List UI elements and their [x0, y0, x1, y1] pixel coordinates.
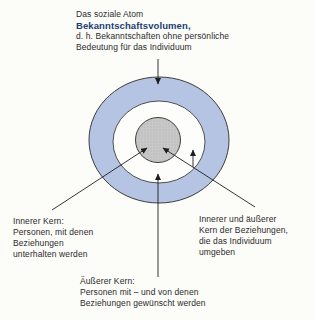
title-line-1: Das soziale Atom	[76, 9, 229, 20]
social-atom-diagram: Das soziale Atom Bekanntschaftsvolumen, …	[0, 0, 314, 320]
label-both-cores-line-3: die das Individuum	[199, 236, 288, 247]
label-outer-core-line-1: Äußerer Kern:	[80, 276, 206, 287]
label-both-cores-line-1: Innerer und äußerer	[199, 214, 288, 225]
label-both-cores-line-4: umgeben	[199, 247, 288, 258]
label-both-cores-line-2: Kern der Beziehungen,	[199, 225, 288, 236]
title-acquaintance-volume: Bekanntschaftsvolumen,	[76, 20, 229, 31]
label-inner-core-line-4: unterhalten werden	[13, 249, 93, 260]
label-inner-and-outer-core: Innerer und äußerer Kern der Beziehungen…	[199, 214, 288, 258]
label-outer-core: Äußerer Kern: Personen mit – und von den…	[80, 276, 206, 309]
label-inner-core-line-2: Personen, mit denen	[13, 227, 93, 238]
title-line-4: Bedeutung für das Individuum	[76, 42, 229, 53]
label-inner-core-line-3: Beziehungen	[13, 238, 93, 249]
label-inner-core-line-1: Innerer Kern:	[13, 216, 93, 227]
label-outer-core-line-2: Personen mit – und von denen	[80, 287, 206, 298]
label-inner-core: Innerer Kern: Personen, mit denen Bezieh…	[13, 216, 93, 260]
label-outer-core-line-3: Beziehungen gewünscht werden	[80, 298, 206, 309]
title-block: Das soziale Atom Bekanntschaftsvolumen, …	[76, 9, 229, 53]
inner-core-circle	[136, 118, 181, 163]
title-line-3: d. h. Bekanntschaften ohne persönliche	[76, 31, 229, 42]
